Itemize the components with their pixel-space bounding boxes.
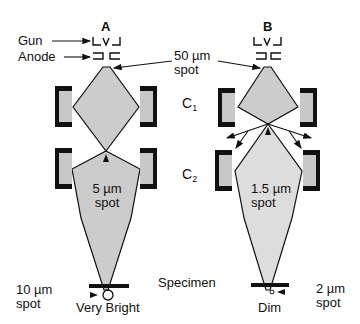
column-a-header: A (101, 20, 110, 34)
column-b-graphics (215, 37, 320, 295)
c1-beam-a (73, 67, 139, 151)
specimen-bar-a (89, 284, 129, 288)
column-a-graphics (55, 37, 157, 300)
column-a-brightness-label: Very Bright (76, 301, 140, 315)
c1-label: C1 (182, 96, 197, 115)
anode-icon-b (256, 53, 281, 59)
column-b-header: B (263, 20, 272, 34)
electron-beam-diagram: A B Gun Anode 50 µm spot C1 C2 5 µm spot… (0, 0, 360, 324)
top-spot-label: 50 µm spot (174, 49, 210, 77)
column-b-brightness-label: Dim (258, 301, 281, 315)
gun-icon-a (93, 37, 120, 45)
c2-beam-a (72, 151, 140, 290)
column-b-mid-spot-label: 1.5 µm spot (251, 182, 291, 210)
specimen-bar-b (251, 283, 289, 287)
gun-icon-b (254, 37, 281, 45)
gun-label: Gun (18, 34, 43, 48)
column-a-mid-spot-label: 5 µm spot (89, 182, 125, 210)
column-a-bottom-spot-label: 10 µm spot (16, 283, 52, 311)
anode-label: Anode (18, 50, 56, 64)
spot-circle-b (270, 290, 274, 294)
c1-beam-b (238, 67, 298, 124)
anode-icon-a (93, 53, 120, 59)
column-b-bottom-spot-label: 2 µm spot (316, 282, 345, 310)
spot-circle-a (103, 290, 113, 300)
specimen-label: Specimen (158, 276, 216, 290)
c2-label: C2 (182, 167, 197, 186)
